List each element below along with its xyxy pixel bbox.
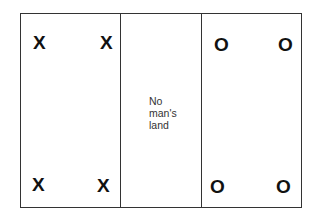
o-mark-bottom-left: O — [210, 177, 225, 196]
o-mark-bottom-right: O — [276, 177, 291, 196]
x-mark-top-right: X — [100, 33, 113, 52]
label-line-2: man's — [149, 107, 177, 119]
x-mark-top-left: X — [33, 33, 46, 52]
o-mark-top-left: O — [214, 35, 229, 54]
left-divider — [120, 13, 121, 207]
x-mark-bottom-right: X — [97, 176, 110, 195]
label-line-1: No — [149, 95, 177, 107]
label-line-3: land — [149, 119, 177, 131]
o-mark-top-right: O — [278, 35, 293, 54]
right-divider — [201, 13, 202, 207]
no-mans-land-label: No man's land — [149, 95, 177, 131]
x-mark-bottom-left: X — [32, 175, 45, 194]
